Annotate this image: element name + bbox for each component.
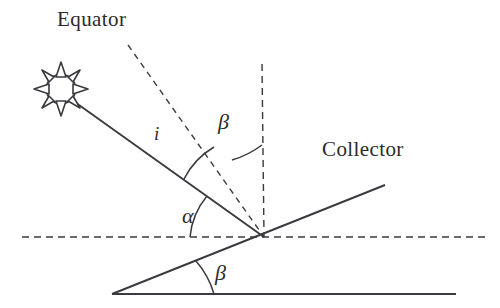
angle-label-beta-upper: β xyxy=(218,111,229,133)
angle-arc-beta-lower xyxy=(196,261,214,294)
sun-ray-line xyxy=(72,100,264,237)
angle-label-alpha: α xyxy=(182,205,194,227)
sun-icon xyxy=(34,62,88,116)
collector-label: Collector xyxy=(322,139,404,160)
angle-arc-beta-upper xyxy=(232,145,262,160)
angle-label-i: i xyxy=(154,124,159,143)
angle-arc-i xyxy=(184,147,214,179)
angle-label-beta-lower: β xyxy=(215,262,226,284)
diagram-canvas xyxy=(0,0,500,308)
equator-label: Equator xyxy=(57,9,126,30)
equator-dashed-line xyxy=(128,45,264,237)
vertical-dashed-line xyxy=(262,64,264,237)
solar-collector-angle-diagram: Equator Collector i β α β xyxy=(0,0,500,308)
collector-line xyxy=(112,185,385,294)
